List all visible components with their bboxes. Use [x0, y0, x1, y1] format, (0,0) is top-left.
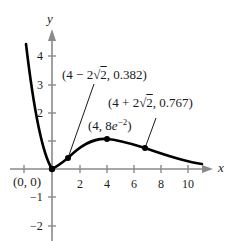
point-label-max-prefix: (4, 8 [88, 118, 112, 133]
point-label-3: (4 + 2√2, 0.767) [108, 96, 193, 109]
y-axis-label: y [47, 12, 53, 25]
x-tick-8: 8 [158, 178, 164, 190]
point-label-1-prefix: (4 − 2 [62, 67, 93, 82]
point-label-3-prefix: (4 + 2 [108, 95, 139, 110]
x-axis-label: x [218, 161, 224, 174]
x-tick-10: 10 [182, 178, 194, 190]
x-axis [10, 165, 213, 173]
point-label-3-suffix: , 0.767) [153, 95, 193, 110]
point-label-1: (4 − 2√2, 0.382) [62, 68, 147, 81]
point-label-max: (4, 8e−2) [88, 118, 132, 132]
y-tick-3: 3 [37, 79, 43, 91]
point-label-1-suffix: , 0.382) [107, 67, 147, 82]
y-tick-neg2: −2 [30, 220, 43, 232]
y-tick-neg1: −1 [30, 191, 43, 203]
point-label-max-exponent: −2 [118, 117, 128, 127]
point-origin [49, 166, 55, 172]
y-tick-4: 4 [37, 50, 43, 62]
origin-label: (0, 0) [13, 175, 41, 188]
x-tick-6: 6 [131, 178, 137, 190]
x-tick-4: 4 [104, 178, 110, 190]
point-label-max-suffix: ) [127, 118, 131, 133]
point-maximum [104, 136, 110, 142]
x-tick-2: 2 [77, 178, 83, 190]
point-inflection-2 [142, 145, 148, 151]
point-inflection-1 [65, 155, 71, 161]
leader-line-3 [145, 118, 156, 148]
y-tick-2: 2 [37, 107, 43, 119]
y-axis [48, 29, 56, 241]
